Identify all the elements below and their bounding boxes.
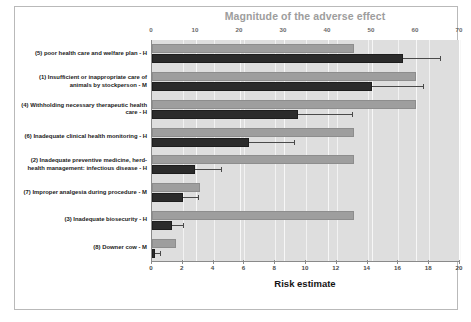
- top-axis-tick: 40: [324, 26, 331, 33]
- plot-area: [151, 40, 459, 262]
- bottom-axis-tick: 4: [211, 264, 214, 271]
- axis-tick-mark: [213, 260, 214, 264]
- error-bar: [249, 142, 294, 143]
- axis-tick-mark: [367, 260, 368, 264]
- axis-tick-mark: [336, 260, 337, 264]
- chart-row: [152, 40, 459, 68]
- axis-tick-mark: [428, 260, 429, 264]
- error-bar: [298, 114, 352, 115]
- chart-row: [152, 96, 459, 124]
- axis-tick-mark: [397, 260, 398, 264]
- axis-tick-mark: [243, 260, 244, 264]
- category-label: (4) Withholding necessary therapeutic he…: [16, 102, 147, 117]
- chart-row: [152, 179, 459, 207]
- bottom-axis-tick: 18: [425, 264, 432, 271]
- error-bar-cap: [423, 84, 424, 89]
- risk-bar: [152, 82, 372, 91]
- top-axis-tick: 70: [456, 26, 463, 33]
- chart-title: Magnitude of the adverse effect: [151, 10, 459, 22]
- category-label: (5) poor health care and welfare plan - …: [16, 50, 147, 58]
- error-bar: [372, 86, 423, 87]
- axis-tick-mark: [274, 260, 275, 264]
- chart-row: [152, 207, 459, 235]
- error-bar-cap: [352, 112, 353, 117]
- magnitude-bar: [152, 72, 416, 81]
- category-label: (1) Insufficient or inappropriate care o…: [16, 74, 147, 89]
- risk-bar: [152, 165, 195, 174]
- top-axis-tick: 30: [280, 26, 287, 33]
- axis-tick-mark: [459, 260, 460, 264]
- top-axis-tick: 0: [149, 26, 152, 33]
- bottom-axis-tick: 10: [302, 264, 309, 271]
- top-axis-tick: 60: [412, 26, 419, 33]
- error-bar-cap: [440, 56, 441, 61]
- error-bar-cap: [294, 140, 295, 145]
- chart-row: [152, 234, 459, 262]
- risk-bar: [152, 221, 172, 230]
- risk-bar: [152, 193, 183, 202]
- chart-row: [152, 68, 459, 96]
- axis-tick-mark: [305, 260, 306, 264]
- category-label: (6) Inadequate clinical health monitorin…: [16, 133, 147, 141]
- chart-row: [152, 151, 459, 179]
- bottom-axis-tick: 0: [149, 264, 152, 271]
- error-bar: [403, 58, 440, 59]
- top-axis-tick: 10: [192, 26, 199, 33]
- risk-bar: [152, 110, 298, 119]
- bottom-axis-tick: 12: [332, 264, 339, 271]
- top-axis-tick: 20: [236, 26, 243, 33]
- gridline: [460, 40, 461, 261]
- risk-bar: [152, 138, 249, 147]
- magnitude-bar: [152, 183, 200, 192]
- bottom-axis-tick: 14: [363, 264, 370, 271]
- bottom-axis-tick: 2: [180, 264, 183, 271]
- error-bar-cap: [183, 223, 184, 228]
- bottom-axis-tick: 8: [272, 264, 275, 271]
- risk-bar: [152, 54, 403, 63]
- category-axis-labels: (5) poor health care and welfare plan - …: [16, 40, 149, 262]
- error-bar-cap: [198, 195, 199, 200]
- error-bar-cap: [160, 251, 161, 256]
- top-axis-tick: 50: [368, 26, 375, 33]
- bottom-axis-tick: 16: [394, 264, 401, 271]
- x-axis-title: Risk estimate: [151, 278, 459, 289]
- top-axis: 010203040506070: [151, 26, 459, 38]
- magnitude-bar: [152, 239, 176, 248]
- category-label: (3) Inadequate biosecurity - H: [16, 216, 147, 224]
- bottom-axis-tick: 6: [242, 264, 245, 271]
- category-label: (2) Inadequate preventive medicine, herd…: [16, 157, 147, 172]
- axis-tick-mark: [182, 260, 183, 264]
- error-bar: [183, 197, 198, 198]
- axis-tick-mark: [151, 260, 152, 264]
- magnitude-bar: [152, 128, 354, 137]
- magnitude-bar: [152, 211, 354, 220]
- error-bar: [172, 225, 183, 226]
- magnitude-bar: [152, 155, 354, 164]
- error-bar: [195, 169, 221, 170]
- chart-figure: Magnitude of the adverse effect 01020304…: [0, 0, 471, 322]
- magnitude-bar: [152, 44, 354, 53]
- magnitude-bar: [152, 100, 416, 109]
- bottom-axis-tick: 20: [456, 264, 463, 271]
- category-label: (7) Improper analgesia during procedure …: [16, 189, 147, 197]
- category-label: (8) Downer cow - M: [16, 244, 147, 252]
- chart-row: [152, 123, 459, 151]
- bottom-axis: 02468101214161820: [151, 264, 459, 276]
- error-bar-cap: [221, 167, 222, 172]
